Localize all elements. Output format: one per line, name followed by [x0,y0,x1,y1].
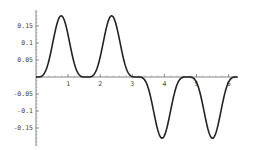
y-tick-label: 0.05 [17,56,33,64]
y-tick-labels: 0.150.10.05-0.05-0.1-0.15 [13,12,39,145]
y-tick-label: -0.1 [17,107,33,115]
y-tick-label: -0.05 [13,90,33,98]
y-tick-label: 0.1 [21,39,33,47]
x-tick-label: 3 [130,80,134,88]
x-tick-label: 4 [162,80,166,88]
x-tick-labels: 123456 [42,74,235,88]
y-tick-label: 0.15 [17,22,33,30]
chart-plot: 0.150.10.05-0.05-0.1-0.15 123456 [0,0,255,150]
y-tick-label: -0.15 [13,124,33,132]
x-tick-label: 2 [98,80,102,88]
x-tick-label: 1 [66,80,70,88]
